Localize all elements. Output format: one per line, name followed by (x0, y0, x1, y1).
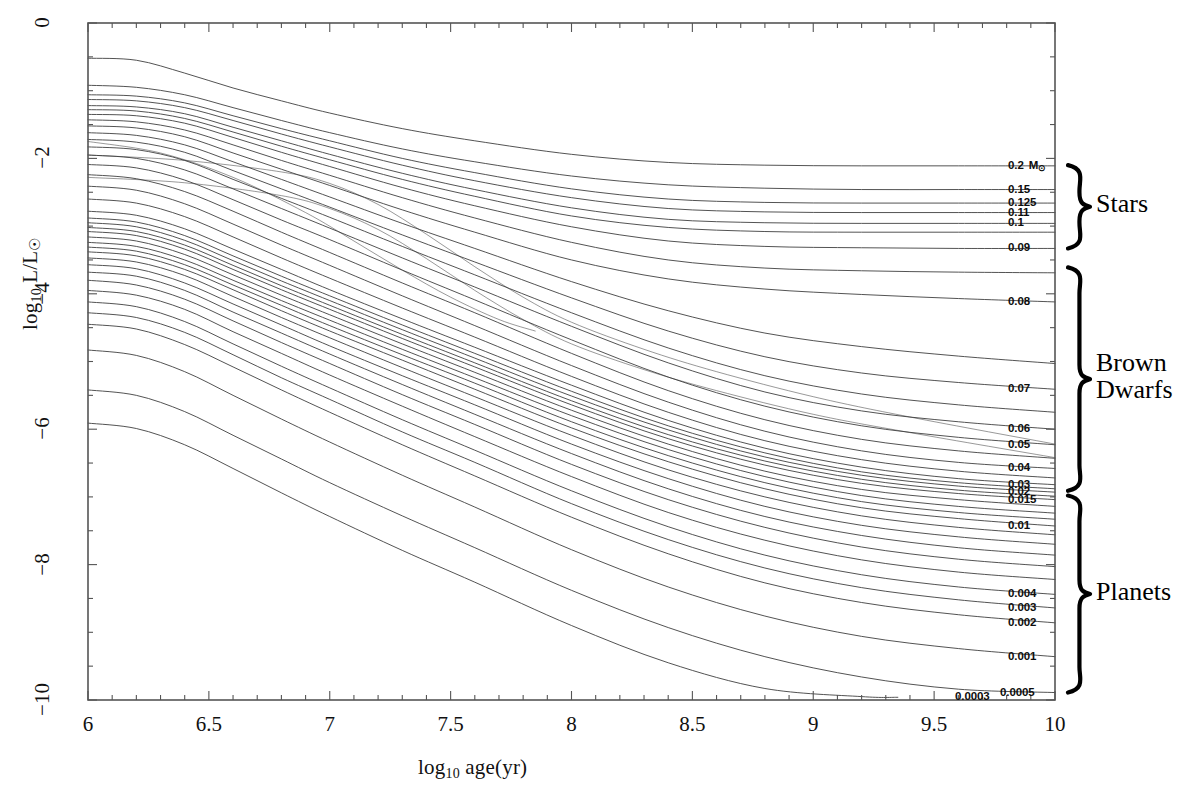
track-label-0p2: 0.2M⊙ (1008, 159, 1046, 173)
track-label-0p1: 0.1 (1008, 216, 1024, 228)
group-label-line: Stars (1096, 191, 1148, 218)
x-tick-label: 8 (542, 712, 602, 737)
x-axis-title: log10 age(yr) (418, 755, 527, 782)
track-label-0p09: 0.09 (1008, 241, 1030, 253)
track-label-0p001: 0.001 (1008, 650, 1036, 662)
x-tick-label: 7.5 (421, 712, 481, 737)
x-tick-label: 10 (1025, 712, 1085, 737)
y-tick-label: 0 (30, 3, 55, 43)
x-tick-label: 6 (58, 712, 118, 737)
track-label-0p05: 0.05 (1008, 438, 1030, 450)
track-label-0p002: 0.002 (1008, 616, 1036, 628)
y-tick-label: −10 (30, 680, 55, 720)
track-label-0p01: 0.01 (1008, 519, 1030, 531)
track-label-0p06: 0.06 (1008, 422, 1030, 434)
track-label-0p08: 0.08 (1008, 295, 1030, 307)
track-label-0p07: 0.07 (1008, 382, 1030, 394)
track-label-0p04: 0.04 (1008, 461, 1030, 473)
track-label-0p015: 0.015 (1008, 493, 1036, 505)
figure-background (0, 0, 1182, 799)
group-label-stars: Stars (1096, 191, 1148, 218)
track-label-0p004: 0.004 (1008, 587, 1036, 599)
track-label-0p0005: 0.0005 (1000, 686, 1035, 698)
group-label-line: Brown (1096, 350, 1173, 377)
group-label-line: Dwarfs (1096, 377, 1173, 404)
group-label-planets: Planets (1096, 579, 1171, 606)
group-label-line: Planets (1096, 579, 1171, 606)
y-tick-label: −4 (30, 273, 55, 313)
evolution-tracks-figure (0, 0, 1182, 799)
track-label-0p003: 0.003 (1008, 601, 1036, 613)
y-tick-label: −2 (30, 138, 55, 178)
x-tick-label: 6.5 (179, 712, 239, 737)
x-tick-label: 7 (300, 712, 360, 737)
y-tick-label: −6 (30, 409, 55, 449)
x-tick-label: 8.5 (662, 712, 722, 737)
track-label-0p0003: 0.0003 (955, 690, 990, 702)
x-tick-label: 9.5 (904, 712, 964, 737)
group-label-brown-dwarfs: BrownDwarfs (1096, 350, 1173, 403)
x-axis-title-text: log10 age(yr) (418, 755, 527, 779)
track-label-0p15: 0.15 (1008, 183, 1030, 195)
y-tick-label: −8 (30, 544, 55, 584)
x-tick-label: 9 (783, 712, 843, 737)
